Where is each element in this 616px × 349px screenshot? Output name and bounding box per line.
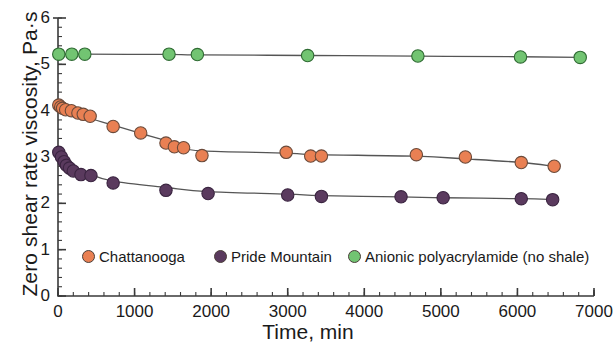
data-point-marker <box>515 193 527 205</box>
data-point-marker <box>410 148 422 160</box>
chart-figure: 0123456 01000200030004000500060007000 Ze… <box>0 0 616 349</box>
data-point-marker <box>548 160 560 172</box>
data-point-marker <box>84 110 96 122</box>
x-tick-label: 4000 <box>345 302 383 322</box>
data-point-marker <box>574 51 586 63</box>
legend-marker-icon <box>82 250 95 263</box>
data-point-marker <box>107 177 119 189</box>
data-point-marker <box>280 146 292 158</box>
legend-label: Pride Mountain <box>231 248 332 265</box>
plot-area <box>0 0 616 349</box>
data-point-marker <box>315 190 327 202</box>
data-point-marker <box>546 193 558 205</box>
legend-label: Chattanooga <box>99 248 185 265</box>
legend-marker-icon <box>214 250 227 263</box>
x-tick-label: 2000 <box>192 302 230 322</box>
data-point-marker <box>301 49 313 61</box>
data-point-marker <box>514 51 526 63</box>
data-point-marker <box>459 151 471 163</box>
data-point-marker <box>79 48 91 60</box>
data-point-marker <box>196 149 208 161</box>
data-point-marker <box>437 192 449 204</box>
data-point-marker <box>315 150 327 162</box>
data-point-marker <box>107 120 119 132</box>
data-point-marker <box>53 48 65 60</box>
data-point-marker <box>282 189 294 201</box>
x-tick-label: 1000 <box>116 302 154 322</box>
legend-label: Anionic polyacrylamide (no shale) <box>365 248 589 265</box>
data-point-marker <box>412 50 424 62</box>
x-tick-label: 6000 <box>499 302 537 322</box>
data-point-marker <box>66 48 78 60</box>
legend-item-pride-mountain: Pride Mountain <box>214 248 332 265</box>
data-point-marker <box>160 184 172 196</box>
data-markers <box>53 48 587 206</box>
data-point-marker <box>85 169 97 181</box>
y-axis-title: Zero shear rate viscosity, Pa·s <box>18 4 42 304</box>
data-point-marker <box>135 127 147 139</box>
fit-curve <box>65 54 580 57</box>
x-tick-label: 7000 <box>575 302 613 322</box>
x-axis-title: Time, min <box>0 320 616 344</box>
data-point-marker <box>515 156 527 168</box>
data-point-marker <box>177 142 189 154</box>
legend-item-chattanooga: Chattanooga <box>82 248 185 265</box>
data-point-marker <box>202 187 214 199</box>
legend-marker-icon <box>348 250 361 263</box>
x-tick-label: 0 <box>53 302 62 322</box>
x-tick-label: 5000 <box>422 302 460 322</box>
x-tick-label: 3000 <box>269 302 307 322</box>
data-point-marker <box>163 48 175 60</box>
data-point-marker <box>191 48 203 60</box>
data-point-marker <box>395 191 407 203</box>
fit-curve <box>66 163 553 200</box>
legend-item-anionic-polyacrylamide: Anionic polyacrylamide (no shale) <box>348 248 589 265</box>
chart-legend: Chattanooga Pride Mountain Anionic polya… <box>58 248 610 274</box>
